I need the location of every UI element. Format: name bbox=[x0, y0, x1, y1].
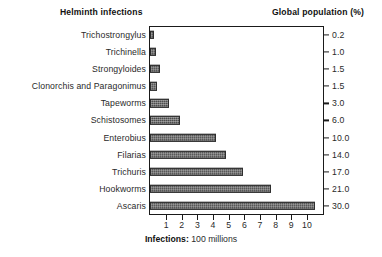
bar-row: Enterobius10.0 bbox=[0, 129, 382, 146]
bar bbox=[150, 185, 271, 193]
global-population-percent-label: 1.5 bbox=[332, 81, 344, 91]
category-label: Filarias bbox=[117, 150, 146, 160]
x-axis-tick-mark bbox=[213, 215, 214, 220]
global-population-percent-label: 21.0 bbox=[332, 184, 349, 194]
bar-row: Trichinella1.0 bbox=[0, 43, 382, 60]
bar-row: Hookworms21.0 bbox=[0, 180, 382, 197]
bar bbox=[150, 31, 153, 39]
x-axis-tick-mark bbox=[291, 215, 292, 220]
global-population-percent-label: 6.0 bbox=[332, 115, 344, 125]
bar-row: Clonorchis and Paragonimus1.5 bbox=[0, 78, 382, 95]
x-axis-title-bold: Infections: bbox=[145, 234, 189, 244]
secondary-axis-tick bbox=[323, 51, 329, 52]
category-label: Enterobius bbox=[103, 133, 146, 143]
right-column-header: Global population (%) bbox=[272, 7, 364, 17]
bar bbox=[150, 168, 242, 176]
x-axis-tick-label: 6 bbox=[242, 220, 247, 230]
x-axis-tick-mark bbox=[244, 215, 245, 220]
global-population-percent-label: 3.0 bbox=[332, 98, 344, 108]
category-label: Tapeworms bbox=[101, 98, 146, 108]
category-label: Strongyloides bbox=[92, 64, 146, 74]
global-population-percent-label: 1.0 bbox=[332, 47, 344, 57]
secondary-axis-tick bbox=[323, 205, 329, 206]
global-population-percent-label: 30.0 bbox=[332, 201, 349, 211]
category-label: Clonorchis and Paragonimus bbox=[32, 81, 146, 91]
secondary-axis-tick bbox=[323, 86, 329, 87]
x-axis-tick-label: 1 bbox=[164, 220, 169, 230]
secondary-axis-tick bbox=[323, 188, 329, 189]
x-axis-tick-label: 5 bbox=[226, 220, 231, 230]
bar-row: Trichuris17.0 bbox=[0, 163, 382, 180]
x-axis-tick-mark bbox=[276, 215, 277, 220]
global-population-percent-label: 1.5 bbox=[332, 64, 344, 74]
x-axis-tick-mark bbox=[166, 215, 167, 220]
bar-row: Schistosomes6.0 bbox=[0, 112, 382, 129]
category-label: Trichinella bbox=[106, 47, 146, 57]
x-axis-tick-label: 8 bbox=[273, 220, 278, 230]
secondary-axis-tick bbox=[323, 34, 329, 35]
bar bbox=[150, 99, 169, 107]
left-column-header: Helminth infections bbox=[60, 7, 143, 17]
bar bbox=[150, 48, 155, 56]
bar-row: Strongyloides1.5 bbox=[0, 61, 382, 78]
bar bbox=[150, 116, 180, 124]
bar-row: Filarias14.0 bbox=[0, 146, 382, 163]
category-label: Schistosomes bbox=[91, 115, 146, 125]
secondary-axis-tick bbox=[323, 154, 329, 155]
bar-row: Ascaris30.0 bbox=[0, 198, 382, 215]
x-axis-title: Infections: 100 millions bbox=[0, 234, 382, 244]
secondary-axis-tick bbox=[323, 120, 329, 121]
global-population-percent-label: 17.0 bbox=[332, 167, 349, 177]
x-axis-title-rest: 100 millions bbox=[189, 234, 237, 244]
secondary-axis-tick bbox=[323, 137, 329, 138]
x-axis-tick-label: 2 bbox=[179, 220, 184, 230]
x-axis-tick-label: 10 bbox=[302, 220, 312, 230]
x-axis-tick-mark bbox=[260, 215, 261, 220]
x-axis-tick-mark bbox=[197, 215, 198, 220]
bar bbox=[150, 150, 225, 158]
global-population-percent-label: 10.0 bbox=[332, 133, 349, 143]
helminth-infections-bar-chart: Helminth infections Global population (%… bbox=[0, 0, 382, 257]
bar-row: Trichostrongylus0.2 bbox=[0, 26, 382, 43]
global-population-percent-label: 0.2 bbox=[332, 30, 344, 40]
bar bbox=[150, 82, 157, 90]
x-axis-tick-mark bbox=[229, 215, 230, 220]
x-axis-tick-label: 7 bbox=[258, 220, 263, 230]
x-axis-tick-mark bbox=[182, 215, 183, 220]
category-label: Ascaris bbox=[117, 201, 146, 211]
secondary-axis-tick bbox=[323, 171, 329, 172]
global-population-percent-label: 14.0 bbox=[332, 150, 349, 160]
x-axis-tick-label: 9 bbox=[289, 220, 294, 230]
category-label: Trichostrongylus bbox=[81, 30, 146, 40]
secondary-axis-tick bbox=[323, 68, 329, 69]
bar-row: Tapeworms3.0 bbox=[0, 95, 382, 112]
bar bbox=[150, 202, 314, 210]
x-axis-tick-label: 3 bbox=[195, 220, 200, 230]
secondary-axis-tick bbox=[323, 103, 329, 104]
bar bbox=[150, 65, 159, 73]
bar bbox=[150, 133, 216, 141]
x-axis-tick-mark bbox=[307, 215, 308, 220]
x-axis-tick-label: 4 bbox=[211, 220, 216, 230]
category-label: Trichuris bbox=[112, 167, 146, 177]
category-label: Hookworms bbox=[99, 184, 146, 194]
